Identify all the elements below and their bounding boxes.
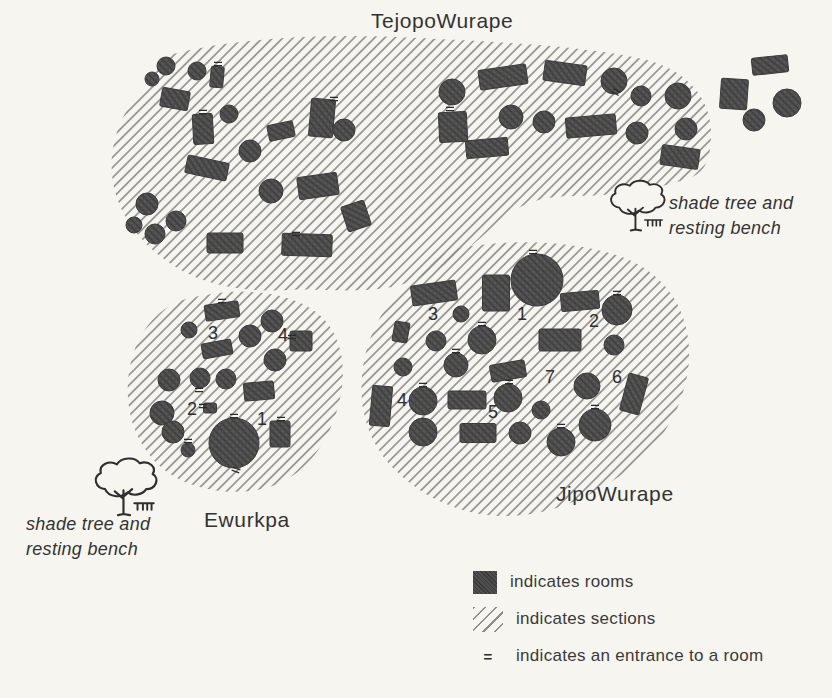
room-number: 2 xyxy=(589,311,599,331)
legend-row-sections: indicates sections xyxy=(473,606,763,632)
room xyxy=(601,68,627,94)
room xyxy=(394,358,412,376)
legend: indicates rooms indicates sections = ind… xyxy=(473,569,763,669)
room-number: 3 xyxy=(428,304,438,324)
room xyxy=(210,66,225,88)
room xyxy=(509,422,531,444)
shade-tree-note-right: shade tree and resting bench xyxy=(669,191,793,241)
room xyxy=(438,111,468,142)
room xyxy=(188,62,206,80)
room xyxy=(743,109,765,131)
room xyxy=(453,306,469,322)
shade-tree-and-bench-icon xyxy=(611,181,664,231)
room-number: 4 xyxy=(278,325,288,345)
room xyxy=(499,105,523,129)
room xyxy=(181,443,195,457)
room xyxy=(145,72,159,86)
room xyxy=(157,57,175,75)
room-number: 1 xyxy=(257,409,267,429)
room xyxy=(574,373,600,399)
room xyxy=(426,331,446,351)
room-number: 7 xyxy=(545,367,555,387)
room xyxy=(468,326,496,354)
legend-entrance-label: indicates an entrance to a room xyxy=(516,646,763,666)
room xyxy=(239,140,261,162)
legend-sections-label: indicates sections xyxy=(516,609,656,629)
room xyxy=(675,118,697,140)
room xyxy=(190,368,210,388)
room xyxy=(369,385,392,427)
entrance-symbol-icon: = xyxy=(473,648,503,665)
room xyxy=(162,421,184,443)
compound-label-ewurkpa: Ewurkpa xyxy=(204,508,290,532)
room xyxy=(602,295,632,325)
room xyxy=(166,211,186,231)
room xyxy=(532,401,550,419)
room xyxy=(216,369,236,389)
room xyxy=(409,387,437,415)
room xyxy=(665,83,691,109)
room xyxy=(631,86,651,106)
rooms-swatch-icon xyxy=(473,571,497,594)
sections-hatch-icon xyxy=(473,607,503,632)
compound-label-tejopowurape: TejopoWurape xyxy=(371,9,513,33)
room xyxy=(494,384,522,412)
room xyxy=(511,254,563,306)
room xyxy=(439,79,465,105)
room xyxy=(560,290,599,311)
room xyxy=(483,275,510,311)
room-number: 2 xyxy=(187,399,197,419)
room-number: 3 xyxy=(208,323,218,343)
room xyxy=(626,122,648,144)
legend-rooms-label: indicates rooms xyxy=(510,572,634,592)
shade-tree-note-left: shade tree and resting bench xyxy=(26,512,150,562)
room xyxy=(719,78,748,110)
room xyxy=(282,233,333,257)
room xyxy=(136,193,158,215)
room-number: 6 xyxy=(612,367,622,387)
room xyxy=(773,89,801,117)
room xyxy=(565,114,617,138)
room xyxy=(308,98,335,138)
room xyxy=(751,55,789,76)
room xyxy=(220,105,238,123)
room xyxy=(264,349,286,371)
room xyxy=(192,113,214,144)
village-compound-map: 34213127645 TejopoWurape Ewurkpa JipoWur… xyxy=(0,0,832,698)
room-number: 4 xyxy=(397,390,407,410)
legend-row-rooms: indicates rooms xyxy=(473,569,763,595)
room xyxy=(444,353,468,377)
shade-tree-and-bench-icon xyxy=(96,459,157,516)
room xyxy=(290,331,312,351)
room xyxy=(239,325,261,347)
room xyxy=(158,369,180,391)
room-number: 5 xyxy=(488,402,498,422)
room xyxy=(465,137,508,159)
room xyxy=(409,418,437,446)
room xyxy=(259,179,283,203)
room xyxy=(243,381,274,402)
room xyxy=(145,224,165,244)
compound-label-jipowurape: JipoWurape xyxy=(556,482,674,506)
room xyxy=(533,111,555,133)
room xyxy=(448,391,486,409)
room xyxy=(126,217,142,233)
room xyxy=(579,409,611,441)
room-number: 1 xyxy=(517,304,527,324)
room xyxy=(209,418,259,468)
room xyxy=(392,321,410,343)
room xyxy=(333,119,355,141)
room xyxy=(181,322,197,338)
room xyxy=(604,335,624,355)
legend-row-entrance: = indicates an entrance to a room xyxy=(473,643,763,669)
room xyxy=(460,424,496,443)
room xyxy=(270,421,290,447)
room xyxy=(547,428,575,456)
room xyxy=(539,329,581,351)
room xyxy=(207,233,243,253)
